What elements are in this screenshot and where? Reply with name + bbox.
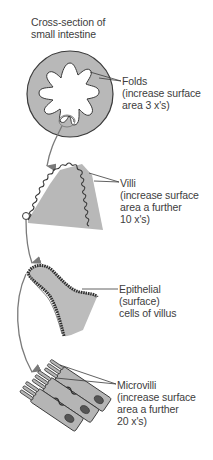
title-line-1: Cross-section of: [31, 16, 105, 28]
folds-label-line-1: Folds: [122, 75, 201, 87]
folds-label-line-2: (increase surface: [122, 87, 201, 99]
folds-label-line-3: area 3 x's): [122, 99, 201, 111]
villi-figure: [23, 163, 104, 230]
villus-figure: [28, 265, 97, 336]
villi-label: Villi (increase surface area a further 1…: [120, 177, 199, 225]
diagram-title: Cross-section of small intestine: [31, 16, 105, 40]
microvilli-label-line-1: Microvilli: [117, 379, 196, 391]
epithelial-label-line-2: (surface): [119, 295, 176, 307]
microvilli-label: Microvilli (increase surface area a furt…: [117, 379, 196, 427]
microvilli-label-line-3: area a further: [117, 403, 196, 415]
arrow-3: [18, 274, 32, 372]
title-line-2: small intestine: [31, 28, 105, 40]
cross-section-figure: [27, 51, 113, 137]
arrow-2: [26, 220, 32, 263]
epithelial-label-line-3: cells of villus: [119, 307, 176, 319]
epithelial-label: Epithelial (surface) cells of villus: [119, 283, 176, 319]
villi-leader-lines: [89, 173, 119, 182]
villi-label-line-3: area a further: [120, 201, 199, 213]
villi-label-line-4: 10 x's): [120, 213, 199, 225]
microvilli-label-line-2: (increase surface: [117, 391, 196, 403]
microvilli-label-line-4: 20 x's): [117, 415, 196, 427]
epithelial-label-line-1: Epithelial: [119, 283, 176, 295]
villi-label-line-1: Villi: [120, 177, 199, 189]
villi-label-line-2: (increase surface: [120, 189, 199, 201]
folds-label: Folds (increase surface area 3 x's): [122, 75, 201, 111]
